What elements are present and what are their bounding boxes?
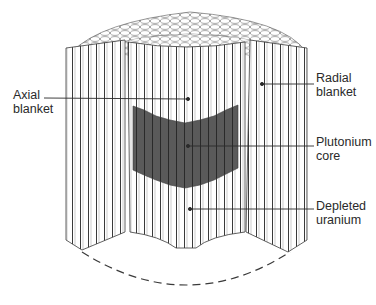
plutonium-core-label: Plutonium core [316, 135, 372, 163]
depleted-uranium-label: Depleted uranium [316, 199, 366, 227]
left-radial-blanket-rods [66, 40, 125, 250]
dashed-base-outline [82, 252, 290, 285]
radial-blanket-label: Radial blanket [316, 71, 356, 99]
axial-blanket-label: Axial blanket [13, 88, 53, 116]
